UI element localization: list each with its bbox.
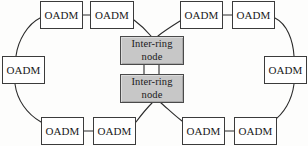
node-oadm-top-right-1[interactable]: OADM xyxy=(180,1,223,29)
node-oadm-top-right-2[interactable]: OADM xyxy=(232,1,275,29)
node-label: OADM xyxy=(186,125,220,137)
node-oadm-left[interactable]: OADM xyxy=(2,56,45,84)
node-label: OADM xyxy=(97,125,131,137)
node-label: OADM xyxy=(95,9,129,21)
arc-oadm-bottom-right-1-to-inter-ring-node-bottom xyxy=(161,103,182,121)
node-oadm-bottom-right-1[interactable]: OADM xyxy=(182,117,225,145)
node-oadm-bottom-right-2[interactable]: OADM xyxy=(234,117,277,145)
node-label-line2: node xyxy=(142,89,163,102)
node-label: OADM xyxy=(238,125,272,137)
node-oadm-bottom-left-2[interactable]: OADM xyxy=(93,117,136,145)
node-oadm-bottom-left-1[interactable]: OADM xyxy=(41,117,84,145)
arc-oadm-top-right-1-to-inter-ring-node-top xyxy=(158,21,180,36)
arc-oadm-left-to-oadm-bottom-left-1 xyxy=(15,84,41,122)
node-label-line1: Inter-ring xyxy=(131,76,172,89)
node-label: OADM xyxy=(45,125,79,137)
node-oadm-top-left-1[interactable]: OADM xyxy=(40,1,83,29)
node-label-line2: node xyxy=(142,51,163,64)
node-label: OADM xyxy=(6,64,40,76)
arc-oadm-top-right-2-to-oadm-right xyxy=(275,18,294,56)
node-oadm-top-left-2[interactable]: OADM xyxy=(90,1,134,29)
node-inter-ring-node-bottom[interactable]: Inter-ring node xyxy=(120,74,184,103)
arc-oadm-top-left-2-to-inter-ring-node-top xyxy=(134,20,151,36)
arc-oadm-top-left-1-to-oadm-left xyxy=(16,18,40,56)
network-ring-diagram: OADM OADM OADM OADM OADM OADM OADM OADM … xyxy=(0,0,308,146)
arc-oadm-bottom-left-2-to-inter-ring-node-bottom xyxy=(136,103,152,122)
node-oadm-right[interactable]: OADM xyxy=(264,56,307,84)
node-label: OADM xyxy=(268,64,302,76)
node-label: OADM xyxy=(44,9,78,21)
node-label-line1: Inter-ring xyxy=(131,38,172,51)
node-label: OADM xyxy=(184,9,218,21)
node-label: OADM xyxy=(236,9,270,21)
node-inter-ring-node-top[interactable]: Inter-ring node xyxy=(120,36,184,65)
